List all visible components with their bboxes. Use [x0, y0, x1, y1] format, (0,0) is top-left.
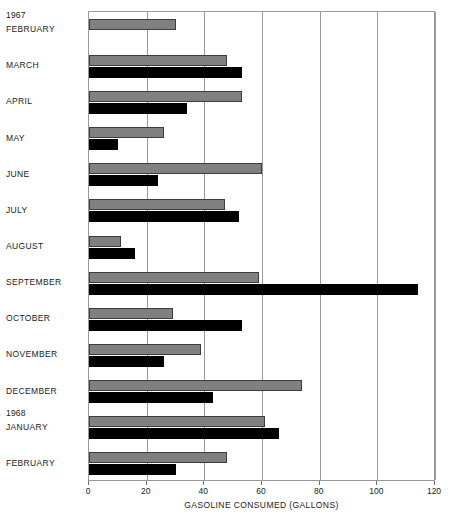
- bar-gray: [89, 416, 265, 427]
- x-axis-tick-label: 40: [199, 486, 208, 496]
- x-axis-tick: [376, 481, 377, 485]
- x-axis-tick: [203, 481, 204, 485]
- x-axis-tick-label: 60: [256, 486, 265, 496]
- bar-gray: [89, 344, 201, 355]
- row-label: JANUARY: [6, 422, 88, 432]
- bar-gray: [89, 236, 121, 247]
- bar-gray: [89, 452, 227, 463]
- bar-black: [89, 428, 279, 439]
- x-axis-tick: [88, 481, 89, 485]
- x-axis-tick: [261, 481, 262, 485]
- bar-gray: [89, 163, 262, 174]
- bar-black: [89, 464, 176, 475]
- row-label: MAY: [6, 133, 88, 143]
- bar-black: [89, 248, 135, 259]
- bar-black: [89, 356, 164, 367]
- row-label: NOVEMBER: [6, 349, 88, 359]
- x-axis-tick: [319, 481, 320, 485]
- row-label: DECEMBER: [6, 386, 88, 396]
- x-axis-title: GASOLINE CONSUMED (GALLONS): [88, 500, 435, 510]
- gridline: [320, 12, 321, 480]
- bar-black: [89, 211, 239, 222]
- bar-gray: [89, 19, 176, 30]
- gasoline-consumption-chart: FEBRUARYMARCHAPRILMAYJUNEJULYAUGUSTSEPTE…: [0, 0, 449, 523]
- x-axis-tick-label: 20: [141, 486, 150, 496]
- x-axis-tick-label: 0: [86, 486, 91, 496]
- row-label: FEBRUARY: [6, 24, 88, 34]
- plot-area: [88, 11, 435, 481]
- bar-black: [89, 320, 242, 331]
- row-label: APRIL: [6, 96, 88, 106]
- year-label: 1968: [6, 408, 88, 418]
- category-label-column: FEBRUARYMARCHAPRILMAYJUNEJULYAUGUSTSEPTE…: [0, 0, 88, 481]
- x-axis-tick-label: 100: [369, 486, 383, 496]
- year-label: 1967: [6, 10, 88, 20]
- bar-black: [89, 284, 418, 295]
- x-axis-tick: [434, 481, 435, 485]
- gridline: [147, 12, 148, 480]
- bar-gray: [89, 272, 259, 283]
- bar-gray: [89, 380, 302, 391]
- x-axis-tick-label: 120: [427, 486, 441, 496]
- bar-gray: [89, 127, 164, 138]
- x-axis: GASOLINE CONSUMED (GALLONS) 020406080100…: [88, 481, 435, 523]
- bar-gray: [89, 55, 227, 66]
- bar-black: [89, 175, 158, 186]
- row-label: AUGUST: [6, 241, 88, 251]
- row-label: SEPTEMBER: [6, 277, 88, 287]
- gridline: [204, 12, 205, 480]
- x-axis-tick: [146, 481, 147, 485]
- bar-black: [89, 103, 187, 114]
- bar-gray: [89, 91, 242, 102]
- bar-gray: [89, 199, 225, 210]
- row-label: MARCH: [6, 60, 88, 70]
- bar-black: [89, 392, 213, 403]
- row-label: JUNE: [6, 169, 88, 179]
- bar-black: [89, 139, 118, 150]
- bar-black: [89, 67, 242, 78]
- gridline: [377, 12, 378, 480]
- row-label: JULY: [6, 205, 88, 215]
- gridline: [435, 12, 436, 480]
- bar-gray: [89, 308, 173, 319]
- row-label: OCTOBER: [6, 313, 88, 323]
- gridline: [262, 12, 263, 480]
- row-label: FEBRUARY: [6, 458, 88, 468]
- x-axis-tick-label: 80: [314, 486, 323, 496]
